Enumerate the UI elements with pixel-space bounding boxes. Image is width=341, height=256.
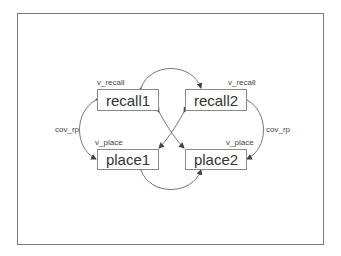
variance-label-place1: v_place	[95, 138, 123, 147]
variance-label-recall1: v_recall	[97, 78, 125, 87]
variance-label-recall2: v_recall	[228, 78, 256, 87]
node-place2: place2	[185, 149, 247, 170]
node-recall1: recall1	[97, 89, 159, 111]
node-label: place1	[106, 151, 150, 168]
node-place1: place1	[97, 149, 159, 170]
cov-place1-place2	[141, 170, 201, 190]
cov-recall1-recall2	[141, 69, 201, 89]
edge-label-left: cov_rp	[55, 125, 79, 134]
node-recall2: recall2	[185, 89, 247, 111]
variance-label-place2: v_place	[226, 138, 254, 147]
cov-recall1-place1	[80, 100, 97, 159]
cov-recall2-place1	[159, 112, 184, 148]
node-label: place2	[194, 151, 238, 168]
cov-recall1-place2	[159, 112, 184, 148]
node-label: recall1	[106, 92, 150, 109]
cov-recall2-place2	[247, 100, 264, 159]
edge-label-right: cov_rp	[266, 125, 290, 134]
node-label: recall2	[194, 92, 238, 109]
